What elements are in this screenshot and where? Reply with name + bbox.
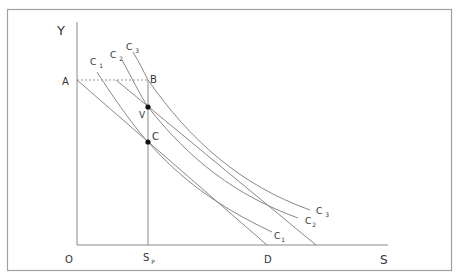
- curve-c1-label-top: C1: [90, 57, 103, 69]
- curve-c1-sub: 1: [99, 62, 103, 69]
- curve-c1-name-b: C: [274, 231, 280, 241]
- curve-c3: [133, 52, 310, 210]
- curve-c2-sub: 2: [119, 55, 123, 62]
- curve-c2-name-b: C: [305, 216, 311, 226]
- curve-c3-sub-b: 3: [325, 211, 329, 218]
- point-c-label: C: [152, 131, 159, 142]
- curve-c3-label-top: C3: [126, 42, 139, 54]
- sp-label-main: S: [143, 252, 149, 263]
- point-v-label: V: [139, 110, 146, 120]
- point-c-dot: [145, 139, 150, 144]
- curve-c3-label-bottom: C3: [316, 206, 329, 218]
- curve-c3-name-b: C: [316, 206, 322, 216]
- curve-c1-sub-b: 1: [281, 236, 285, 243]
- curve-c3-sub: 3: [135, 47, 139, 54]
- curve-c1-name: C: [90, 57, 96, 67]
- origin-label: O: [65, 254, 73, 265]
- point-b-label: B: [150, 74, 157, 85]
- point-a-label: A: [62, 76, 69, 87]
- curve-c2-label-bottom: C2: [305, 216, 316, 228]
- point-v-dot: [145, 104, 150, 109]
- diagram-canvas: Y S O A B V C D SP C1 C2 C3 C1 C2 C3: [0, 0, 459, 276]
- curve-c3-name: C: [126, 42, 132, 52]
- curve-c2-label-top: C2: [110, 50, 123, 62]
- sp-label: SP: [143, 252, 155, 265]
- frame-border: [8, 10, 452, 271]
- budget-line-a-d: [77, 80, 267, 245]
- sp-label-sub: P: [151, 258, 155, 265]
- point-d-label: D: [264, 254, 272, 265]
- curve-c2-name: C: [110, 50, 116, 60]
- curve-c2-sub-b: 2: [312, 221, 316, 228]
- y-axis-label: Y: [56, 23, 65, 38]
- x-axis-label: S: [380, 253, 388, 267]
- curve-c1-label-bottom: C1: [274, 231, 285, 243]
- curve-c1: [97, 72, 272, 232]
